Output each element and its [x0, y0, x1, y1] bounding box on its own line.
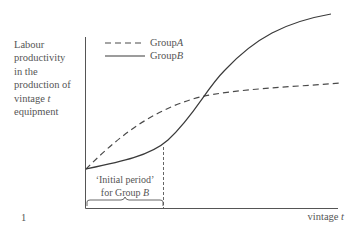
- legend-label: Group: [150, 49, 177, 62]
- annotation-line: ‘Initial period’: [88, 174, 162, 187]
- y-label-line: in the: [14, 65, 86, 78]
- annotation-line: for Group B: [88, 187, 162, 200]
- y-label-line: equipment: [14, 105, 86, 118]
- initial-period-annotation: ‘Initial period’ for Group B: [88, 174, 162, 199]
- legend-label-italic: B: [177, 49, 183, 62]
- x-label-text: vintage: [308, 211, 342, 222]
- y-label-line: production of: [14, 78, 86, 91]
- legend-item-group-a: Group A: [105, 36, 183, 49]
- y-label-line: productivity: [14, 51, 86, 64]
- legend: Group A Group B: [105, 36, 183, 62]
- y-label-text: vintage: [14, 93, 48, 104]
- y-label-line: Labour: [14, 38, 86, 51]
- y-axis-label: Labour productivity in the production of…: [14, 38, 86, 118]
- dashed-line-swatch-icon: [105, 41, 145, 45]
- x-axis-label: vintage t: [308, 211, 344, 222]
- y-label-line: vintage t: [14, 92, 86, 105]
- legend-label: Group: [150, 36, 177, 49]
- x-origin-label: 1: [21, 212, 26, 223]
- x-label-italic: t: [341, 211, 344, 222]
- legend-label-italic: A: [177, 36, 183, 49]
- series-group-a: [86, 83, 341, 169]
- y-label-italic: t: [48, 93, 51, 104]
- annotation-italic: B: [143, 187, 149, 198]
- annotation-text: for Group: [101, 187, 143, 198]
- solid-line-swatch-icon: [105, 54, 145, 58]
- legend-item-group-b: Group B: [105, 49, 183, 62]
